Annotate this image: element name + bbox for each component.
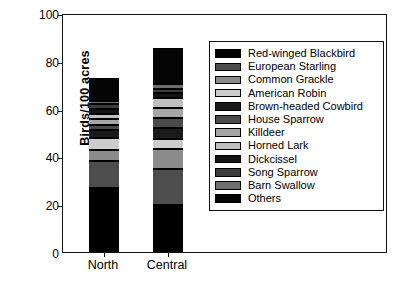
y-tick-label-0: 0 xyxy=(19,249,59,259)
bar-segment xyxy=(89,138,119,150)
bar-segment xyxy=(89,188,119,252)
y-tick-label-80: 80 xyxy=(19,58,59,68)
y-tick-label-20: 20 xyxy=(19,201,59,211)
legend-label: Red-winged Blackbird xyxy=(248,48,355,59)
legend-label: Song Sparrow xyxy=(248,167,318,178)
bar-segment xyxy=(153,108,183,118)
x-axis-label-central: Central xyxy=(127,258,207,272)
bar-segment xyxy=(153,128,183,139)
legend-item: Horned Lark xyxy=(215,139,377,152)
legend-item: Song Sparrow xyxy=(215,166,377,179)
stacked-bar-north xyxy=(89,78,119,252)
legend-label: Brown-headed Cowbird xyxy=(248,101,363,112)
legend-item: Killdeer xyxy=(215,126,377,139)
legend-swatch-icon xyxy=(215,194,241,203)
bar-segment xyxy=(153,98,183,108)
legend-swatch-icon xyxy=(215,49,241,58)
bar-segment xyxy=(153,169,183,205)
legend-item: European Starling xyxy=(215,60,377,73)
legend-label: Horned Lark xyxy=(248,140,309,151)
legend-label: Killdeer xyxy=(248,127,285,138)
legend-label: Common Grackle xyxy=(248,74,334,85)
legend-item: Others xyxy=(215,192,377,205)
legend-label: Barn Swallow xyxy=(248,180,315,191)
bar-segment xyxy=(89,161,119,188)
legend-item: Barn Swallow xyxy=(215,179,377,192)
y-tick-mark-100 xyxy=(58,15,63,16)
legend-item: Brown-headed Cowbird xyxy=(215,100,377,113)
plot-area: Birds/100 acres 020406080100 Red-winged … xyxy=(62,14,387,253)
chart-legend: Red-winged BlackbirdEuropean StarlingCom… xyxy=(209,41,384,211)
legend-swatch-icon xyxy=(215,128,241,137)
y-tick-label-100: 100 xyxy=(19,10,59,20)
x-tick-central xyxy=(168,252,169,257)
legend-swatch-icon xyxy=(215,155,241,164)
legend-label: House Sparrow xyxy=(248,114,324,125)
legend-swatch-icon xyxy=(215,115,241,124)
bar-segment xyxy=(153,118,183,128)
legend-item: Common Grackle xyxy=(215,73,377,86)
legend-swatch-icon xyxy=(215,181,241,190)
legend-swatch-icon xyxy=(215,168,241,177)
y-tick-mark-60 xyxy=(58,111,63,112)
y-tick-mark-20 xyxy=(58,206,63,207)
y-tick-label-60: 60 xyxy=(19,106,59,116)
y-tick-mark-40 xyxy=(58,158,63,159)
legend-swatch-icon xyxy=(215,63,241,72)
stacked-bar-central xyxy=(153,48,183,252)
bar-segment xyxy=(89,130,119,138)
bar-segment xyxy=(89,150,119,161)
cropped-caption-sliver xyxy=(48,0,348,6)
legend-item: House Sparrow xyxy=(215,113,377,126)
legend-swatch-icon xyxy=(215,142,241,151)
bar-segment xyxy=(89,78,119,101)
legend-swatch-icon xyxy=(215,89,241,98)
y-tick-label-40: 40 xyxy=(19,153,59,163)
legend-label: Others xyxy=(248,193,281,204)
bar-segment xyxy=(153,139,183,150)
y-tick-mark-80 xyxy=(58,63,63,64)
legend-label: European Starling xyxy=(248,61,336,72)
legend-item: Red-winged Blackbird xyxy=(215,47,377,60)
bar-segment xyxy=(153,48,183,84)
legend-item: American Robin xyxy=(215,87,377,100)
bar-segment xyxy=(153,149,183,168)
legend-item: Dickcissel xyxy=(215,153,377,166)
legend-label: American Robin xyxy=(248,88,326,99)
x-tick-north xyxy=(104,252,105,257)
legend-swatch-icon xyxy=(215,76,241,85)
bar-segment xyxy=(153,205,183,252)
legend-label: Dickcissel xyxy=(248,154,297,165)
legend-swatch-icon xyxy=(215,102,241,111)
